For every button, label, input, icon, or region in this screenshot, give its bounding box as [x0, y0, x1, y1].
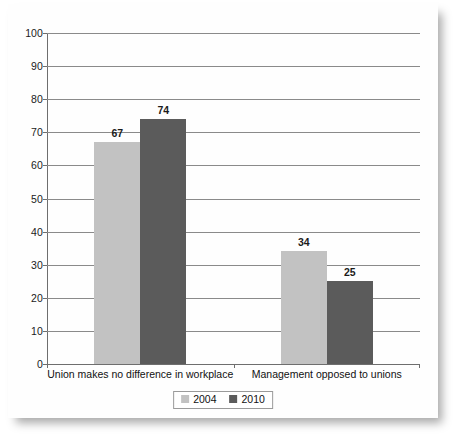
bar-value-label: 34: [281, 236, 327, 248]
y-axis-tick-label: 0: [9, 358, 43, 370]
y-axis-tick-label: 20: [9, 292, 43, 304]
y-axis-tick-label: 100: [9, 27, 43, 39]
legend-swatch-2004-icon: [181, 395, 189, 403]
legend-label-2010: 2010: [242, 394, 265, 405]
bar-value-label: 25: [327, 266, 373, 278]
y-axis-tick-label: 40: [9, 226, 43, 238]
x-axis-tick-mark: [234, 364, 235, 368]
x-axis-category-label: Management opposed to unions: [234, 368, 421, 380]
y-axis-tick-label: 70: [9, 126, 43, 138]
bar-2010-0: [140, 119, 186, 364]
grouped-bar-chart: 0102030405060708090100 67743425 Union ma…: [8, 4, 438, 418]
bar-value-label: 74: [140, 104, 186, 116]
y-axis-tick-label: 80: [9, 93, 43, 105]
bar-2010-1: [327, 281, 373, 364]
legend-item-2004: 2004: [181, 394, 216, 405]
x-axis-labels: Union makes no difference in workplaceMa…: [47, 368, 420, 386]
x-axis-tick-mark: [419, 364, 420, 368]
bar-2004-1: [281, 251, 327, 364]
gridline: [47, 33, 420, 34]
x-axis-tick-mark: [47, 364, 48, 368]
y-axis-labels: 0102030405060708090100: [8, 33, 43, 364]
legend-swatch-2010-icon: [230, 395, 238, 403]
y-axis-tick-label: 60: [9, 159, 43, 171]
bar-2004-0: [94, 142, 140, 364]
x-axis-category-label: Union makes no difference in workplace: [47, 368, 234, 380]
legend-item-2010: 2010: [230, 394, 265, 405]
y-axis-tick-label: 90: [9, 60, 43, 72]
y-axis-tick-label: 50: [9, 193, 43, 205]
chart-legend: 2004 2010: [173, 391, 273, 409]
scanned-page: 0102030405060708090100 67743425 Union ma…: [8, 4, 438, 418]
gridline: [47, 99, 420, 100]
plot-area: 67743425: [47, 33, 420, 364]
bar-value-label: 67: [94, 127, 140, 139]
y-axis-tick-label: 30: [9, 259, 43, 271]
gridline: [47, 66, 420, 67]
legend-label-2004: 2004: [193, 394, 216, 405]
y-axis-tick-label: 10: [9, 325, 43, 337]
